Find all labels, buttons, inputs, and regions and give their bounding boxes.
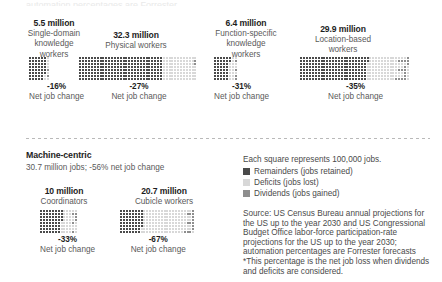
job-square <box>364 75 366 77</box>
job-square <box>323 78 325 80</box>
job-square <box>79 63 81 65</box>
job-square <box>111 63 113 65</box>
job-square <box>192 60 194 62</box>
job-square <box>146 228 148 230</box>
job-square <box>172 222 174 224</box>
job-square <box>117 57 119 59</box>
job-square <box>384 66 386 68</box>
job-square <box>105 63 107 65</box>
job-square <box>367 60 369 62</box>
job-square <box>407 69 409 71</box>
job-square <box>177 57 179 59</box>
job-square <box>180 63 182 65</box>
job-square <box>97 60 99 62</box>
job-square <box>52 225 54 227</box>
job-square <box>306 57 308 59</box>
job-square <box>140 78 142 80</box>
legend-item-label: Deficits (jobs lost) <box>254 178 319 187</box>
job-square <box>232 57 234 59</box>
job-square <box>94 60 96 62</box>
job-square <box>312 60 314 62</box>
job-square <box>338 75 340 77</box>
job-square <box>141 231 143 233</box>
job-square <box>346 75 348 77</box>
job-square <box>321 66 323 68</box>
job-square <box>161 228 163 230</box>
job-square <box>157 63 159 65</box>
job-square <box>155 216 157 218</box>
job-square <box>166 210 168 212</box>
job-square <box>187 228 189 230</box>
job-square <box>69 222 71 224</box>
job-square <box>120 222 122 224</box>
job-square <box>138 210 140 212</box>
job-square <box>378 78 380 80</box>
job-square <box>91 63 93 65</box>
job-square <box>309 72 311 74</box>
job-square <box>306 72 308 74</box>
job-square <box>178 219 180 221</box>
job-square <box>184 225 186 227</box>
job-square <box>75 225 77 227</box>
job-square <box>125 60 127 62</box>
job-square <box>102 57 104 59</box>
category-caption: 29.9 millionLocation-basedworkers <box>300 24 386 56</box>
job-square <box>169 216 171 218</box>
job-square <box>29 72 31 74</box>
job-square <box>85 69 87 71</box>
job-square <box>158 213 160 215</box>
job-square <box>346 66 348 68</box>
job-square <box>138 213 140 215</box>
job-square <box>161 210 163 212</box>
job-square <box>40 216 42 218</box>
job-square <box>131 72 133 74</box>
job-square <box>364 57 366 59</box>
job-square <box>100 72 102 74</box>
job-square <box>55 210 57 212</box>
job-square <box>369 78 371 80</box>
job-square <box>164 222 166 224</box>
job-square <box>229 60 231 62</box>
job-square <box>43 210 45 212</box>
job-square <box>183 78 185 80</box>
job-square <box>131 63 133 65</box>
job-square <box>146 63 148 65</box>
job-square <box>79 69 81 71</box>
job-square <box>338 66 340 68</box>
job-square <box>181 225 183 227</box>
job-square <box>401 72 403 74</box>
job-square <box>395 78 397 80</box>
job-square <box>172 213 174 215</box>
job-square <box>187 231 189 233</box>
category-total: 20.7 million <box>118 186 210 197</box>
job-square <box>108 69 110 71</box>
job-square <box>129 210 131 212</box>
job-square <box>120 228 122 230</box>
job-square <box>146 78 148 80</box>
job-square <box>100 63 102 65</box>
job-square <box>192 222 194 224</box>
job-square <box>318 69 320 71</box>
job-square <box>47 69 49 71</box>
job-square <box>232 69 234 71</box>
job-square <box>66 216 68 218</box>
job-square <box>300 63 302 65</box>
job-square <box>63 213 65 215</box>
job-square <box>369 66 371 68</box>
job-square <box>85 57 87 59</box>
job-square <box>217 69 219 71</box>
job-square <box>232 63 234 65</box>
job-square <box>180 57 182 59</box>
job-square <box>192 75 194 77</box>
legend-item: Remainders (jobs retained) <box>243 167 439 176</box>
job-square <box>344 60 346 62</box>
job-square <box>346 57 348 59</box>
job-square <box>166 72 168 74</box>
job-square <box>335 60 337 62</box>
job-square <box>158 210 160 212</box>
job-square <box>128 78 130 80</box>
job-square <box>323 75 325 77</box>
job-square <box>169 222 171 224</box>
job-square <box>79 60 81 62</box>
job-square <box>381 69 383 71</box>
